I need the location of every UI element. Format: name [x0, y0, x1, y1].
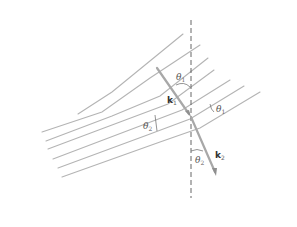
refraction-diagram: θ1 θ1 θ2 θ2 k1 k2: [0, 0, 297, 227]
theta2-refracted-label: θ2: [195, 155, 204, 166]
wavefront-4: [48, 70, 214, 149]
k2-arrowhead: [212, 168, 217, 176]
theta1-incident-label: θ1: [176, 72, 185, 83]
wavefront-2: [42, 45, 200, 132]
k1-arrowhead: [185, 110, 191, 117]
k2-label: k2: [215, 150, 225, 161]
theta1-incident-arc: [176, 83, 190, 87]
theta1-wavefront-label: θ1: [216, 104, 225, 115]
wavefront-3: [46, 58, 208, 141]
k1-vector: [157, 68, 189, 114]
theta2-wavefront-arc: [155, 115, 157, 131]
theta2-refracted-arc: [191, 150, 203, 152]
k1-label: k1: [167, 95, 177, 106]
wavefronts: [42, 34, 260, 177]
theta2-wavefront-label: θ2: [143, 121, 152, 132]
